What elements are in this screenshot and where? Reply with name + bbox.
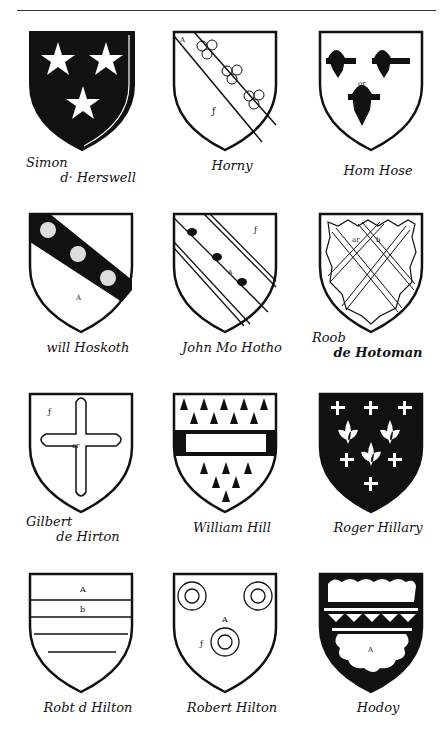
caption-line-2: de Hotoman: [308, 345, 444, 360]
svg-text:A: A: [227, 268, 233, 275]
shield-gilbert-de-hirton: or ƒ Gilbert de Hirton: [18, 392, 158, 567]
svg-text:b: b: [80, 605, 85, 614]
shield-john-mo-hotho: A ƒ John Mo Hotho: [162, 212, 302, 387]
shield-robert-hilton: Aƒ Robert Hilton: [162, 572, 302, 747]
shield-cross-flory-icon: or ƒ: [28, 392, 138, 514]
shield-annulets-icon: Aƒ: [172, 572, 282, 694]
svg-text:b: b: [376, 236, 381, 244]
shield-fleurs-de-lis-icon: [318, 392, 428, 514]
caption-line-2: de Hirton: [18, 529, 158, 544]
svg-text:A: A: [367, 646, 374, 654]
svg-text:or: or: [358, 80, 366, 88]
shield-horny: A ƒ Horny: [162, 30, 302, 205]
svg-text:A: A: [75, 294, 82, 302]
shield-hom-hose: or Hom Hose: [308, 30, 444, 205]
shield-castle-ermine-icon: [172, 392, 282, 514]
caption-line-1: Hom Hose: [308, 163, 444, 178]
shield-will-hoskoth: A will Hoskoth: [18, 212, 158, 387]
caption-line-2: d· Herswell: [28, 170, 168, 185]
shield-fess-dancetty-icon: A: [318, 572, 428, 694]
caption-line-1: Gilbert: [18, 514, 166, 529]
shield-mullets-icon: [28, 30, 138, 152]
svg-text:ƒ: ƒ: [211, 106, 216, 116]
caption-line-1: Robert Hilton: [162, 700, 302, 715]
shield-bend-garbs-icon: A: [28, 212, 138, 334]
caption-line-1: John Mo Hotho: [162, 340, 302, 355]
shield-simon-de-herswell: Simon d· Herswell: [18, 30, 158, 205]
caption-line-1: Simon: [8, 155, 166, 170]
svg-text:A: A: [221, 615, 228, 624]
shield-william-hill: William Hill: [162, 392, 302, 567]
caption-line-1: will Hoskoth: [18, 340, 158, 355]
svg-text:or: or: [72, 442, 80, 450]
shield-bend-trefoils-icon: A ƒ: [172, 30, 282, 152]
shield-grid: Simon d· Herswell A ƒ Horny or Hom Hose: [0, 0, 444, 750]
shield-hodoy: A Hodoy: [308, 572, 444, 747]
caption-line-1: Robt d Hilton: [18, 700, 158, 715]
shield-rob-de-hotoman: arb Roob de Hotoman: [308, 212, 444, 387]
svg-text:ar: ar: [352, 236, 360, 244]
shield-eagles-icon: or: [318, 30, 428, 152]
caption-line-1: Horny: [162, 158, 302, 173]
shield-bend-birds-icon: A ƒ: [172, 212, 282, 334]
shield-roger-hillary: Roger Hillary: [308, 392, 444, 567]
caption-line-1: Hodoy: [308, 700, 444, 715]
caption-line-1: William Hill: [162, 520, 302, 535]
svg-text:A: A: [79, 585, 86, 594]
shield-barry-icon: Ab: [28, 572, 138, 694]
shield-fretty-icon: arb: [318, 212, 428, 334]
svg-text:A: A: [179, 36, 186, 44]
caption-line-1: Roob: [308, 330, 444, 345]
caption-line-1: Roger Hillary: [308, 520, 444, 535]
shield-rob-de-hilton: Ab Robt d Hilton: [18, 572, 158, 747]
